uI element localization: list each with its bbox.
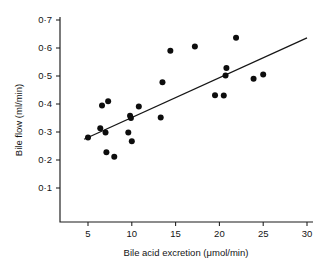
data-point bbox=[192, 44, 198, 50]
data-point bbox=[97, 125, 103, 131]
y-tick-label: 0·1 bbox=[38, 182, 52, 193]
data-point bbox=[167, 48, 173, 54]
y-tick-label: 0·3 bbox=[38, 126, 52, 137]
y-tick-label: 0·6 bbox=[38, 42, 52, 53]
data-point bbox=[158, 114, 164, 120]
data-point bbox=[212, 92, 218, 98]
x-tick-label: 15 bbox=[170, 228, 181, 239]
x-tick-label: 30 bbox=[302, 228, 313, 239]
x-axis-title: Bile acid excretion (μmol/min) bbox=[124, 247, 249, 258]
data-point bbox=[103, 130, 109, 136]
data-point bbox=[125, 130, 131, 136]
data-point bbox=[223, 72, 229, 78]
data-point bbox=[85, 135, 91, 141]
data-point bbox=[99, 102, 105, 108]
y-tick-label: 0·7 bbox=[38, 14, 52, 25]
y-axis-title: Bile flow (ml/min) bbox=[13, 84, 24, 156]
data-point bbox=[251, 76, 257, 82]
data-point bbox=[221, 93, 227, 99]
data-point bbox=[103, 149, 109, 155]
data-point bbox=[129, 138, 135, 144]
x-tick-label: 5 bbox=[85, 228, 90, 239]
y-tick-label: 0·5 bbox=[38, 70, 52, 81]
data-point bbox=[233, 35, 239, 41]
data-point bbox=[223, 65, 229, 71]
x-tick-label: 20 bbox=[214, 228, 225, 239]
data-point bbox=[128, 115, 134, 121]
y-tick-label: 0·4 bbox=[38, 98, 52, 109]
data-point bbox=[111, 154, 117, 160]
x-tick-label: 25 bbox=[258, 228, 269, 239]
scatter-plot: 0·10·20·30·40·50·60·7 51015202530 Bile a… bbox=[0, 0, 324, 265]
data-point bbox=[136, 104, 142, 110]
x-tick-label: 10 bbox=[127, 228, 138, 239]
chart-figure: 0·10·20·30·40·50·60·7 51015202530 Bile a… bbox=[0, 0, 324, 265]
data-point bbox=[105, 98, 111, 104]
data-point bbox=[260, 72, 266, 78]
y-tick-label: 0·2 bbox=[38, 154, 52, 165]
data-point bbox=[159, 79, 165, 85]
